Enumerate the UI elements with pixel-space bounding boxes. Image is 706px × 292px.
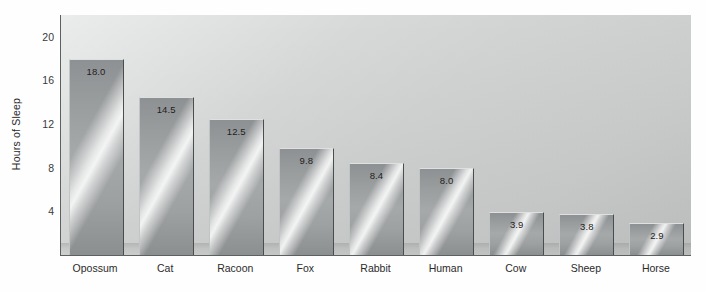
bar-value-label: 2.9 (630, 230, 683, 241)
y-tick-label: 16 (22, 74, 54, 86)
x-axis-line (60, 255, 691, 256)
y-tick-label: 12 (22, 118, 54, 130)
bar[interactable]: 3.9 (489, 212, 544, 255)
bar-slot: 2.9 (629, 15, 684, 255)
bar-value-label: 3.9 (490, 219, 543, 230)
bar-slot: 3.8 (559, 15, 614, 255)
bar-slot: 18.0 (69, 15, 124, 255)
x-tick-label: Human (429, 262, 463, 274)
bar[interactable]: 8.4 (349, 163, 404, 255)
bars-layer: 18.014.512.59.88.48.03.93.82.9 (61, 15, 691, 255)
bar-slot: 9.8 (279, 15, 334, 255)
bar-value-label: 14.5 (140, 104, 193, 115)
bar[interactable]: 12.5 (209, 119, 264, 255)
x-tick-label: Opossum (73, 262, 118, 274)
bar-value-label: 8.4 (350, 170, 403, 181)
x-tick-label: Rabbit (360, 262, 390, 274)
bar[interactable]: 2.9 (629, 223, 684, 255)
bar-slot: 8.0 (419, 15, 474, 255)
x-axis-tick-labels: OpossumCatRacoonFoxRabbitHumanCowSheepHo… (60, 258, 691, 282)
bar[interactable]: 18.0 (69, 59, 124, 255)
bar-value-label: 12.5 (210, 126, 263, 137)
bar-slot: 8.4 (349, 15, 404, 255)
plot-area: 18.014.512.59.88.48.03.93.82.9 (60, 15, 691, 255)
y-tick-label: 20 (22, 31, 54, 43)
bar-slot: 3.9 (489, 15, 544, 255)
y-tick-label: 8 (22, 162, 54, 174)
x-tick-label: Cow (505, 262, 526, 274)
bar-value-label: 8.0 (420, 175, 473, 186)
bar[interactable]: 8.0 (419, 168, 474, 255)
bar-value-label: 9.8 (280, 155, 333, 166)
bar-slot: 14.5 (139, 15, 194, 255)
x-tick-label: Fox (297, 262, 315, 274)
y-axis-title: Hours of Sleep (10, 74, 22, 194)
bar-value-label: 3.8 (560, 221, 613, 232)
x-tick-label: Cat (157, 262, 173, 274)
y-tick-label: 4 (22, 205, 54, 217)
bar[interactable]: 9.8 (279, 148, 334, 255)
bar-slot: 12.5 (209, 15, 264, 255)
bar[interactable]: 3.8 (559, 214, 614, 255)
y-axis-tick-labels: 48121620 (22, 0, 54, 292)
bar-value-label: 18.0 (70, 66, 123, 77)
bar[interactable]: 14.5 (139, 97, 194, 255)
bar-chart: Hours of Sleep 48121620 18.014.512.59.88… (0, 0, 706, 292)
x-tick-label: Racoon (217, 262, 253, 274)
x-tick-label: Sheep (571, 262, 601, 274)
x-tick-label: Horse (642, 262, 670, 274)
